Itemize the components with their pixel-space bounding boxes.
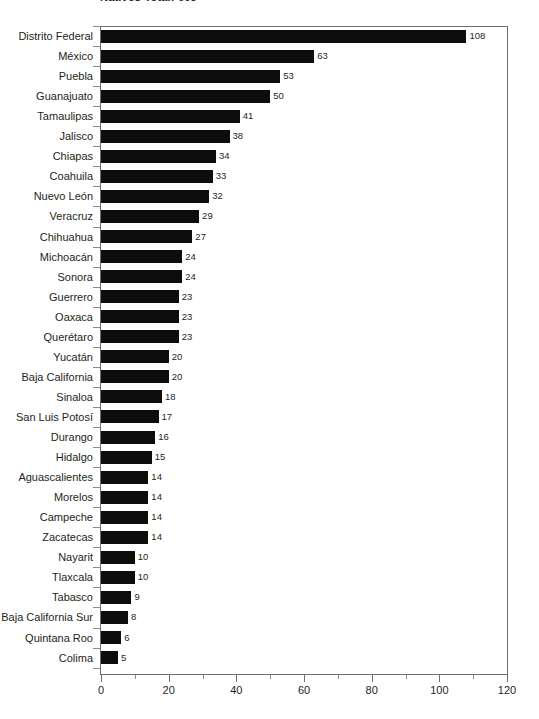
x-axis-tick-label: 20 bbox=[149, 684, 189, 696]
x-axis-tick-label: 60 bbox=[284, 684, 324, 696]
x-axis-tick-major bbox=[169, 675, 170, 682]
x-axis-tick-label: 40 bbox=[216, 684, 256, 696]
x-axis-tick-major bbox=[372, 675, 373, 682]
x-axis-tick-major bbox=[304, 675, 305, 682]
x-axis-tick-minor bbox=[135, 675, 136, 679]
x-axis-tick-minor bbox=[338, 675, 339, 679]
x-axis-tick-minor bbox=[203, 675, 204, 679]
x-axis-tick-minor bbox=[473, 675, 474, 679]
x-axis-tick-major bbox=[439, 675, 440, 682]
x-axis-tick-major bbox=[101, 675, 102, 682]
x-axis-tick-label: 80 bbox=[352, 684, 392, 696]
x-axis-tick-minor bbox=[406, 675, 407, 679]
x-axis: 020406080100120 bbox=[0, 0, 539, 719]
x-axis-tick-label: 0 bbox=[81, 684, 121, 696]
bar-chart: Nativos Total: 663 Distrito Federal108Mé… bbox=[0, 0, 539, 719]
x-axis-tick-major bbox=[507, 675, 508, 682]
x-axis-tick-major bbox=[236, 675, 237, 682]
x-axis-tick-label: 100 bbox=[419, 684, 459, 696]
x-axis-tick-label: 120 bbox=[487, 684, 527, 696]
x-axis-tick-minor bbox=[270, 675, 271, 679]
